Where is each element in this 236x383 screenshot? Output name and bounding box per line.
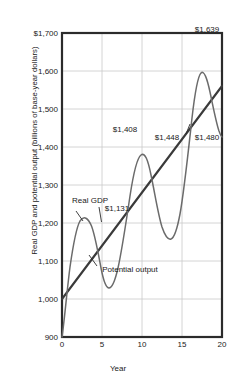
value-label-1480: $1,480: [195, 133, 219, 142]
series-label-real-gdp: Real GDP: [72, 196, 108, 205]
series-label-potential-output: Potential output: [102, 265, 158, 274]
real-gdp-leader-line: [76, 211, 83, 221]
chart-figure: Real GDP and potential output (billions …: [0, 0, 236, 383]
value-label-1448: $1,448: [155, 133, 179, 142]
value-1131-leader-line: [99, 207, 102, 222]
value-label-1408: $1,408: [113, 125, 137, 134]
value-label-1639: $1,639: [195, 25, 219, 34]
value-label-1131: $1,131: [105, 204, 129, 213]
plot-area: [0, 0, 236, 383]
